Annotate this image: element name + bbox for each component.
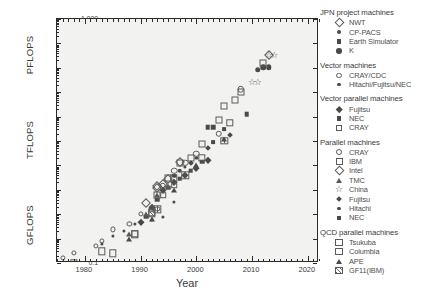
data-point: [170, 174, 177, 181]
y-axis-minor-tick: [57, 75, 59, 76]
y-axis-minor-tick: [57, 182, 59, 183]
legend-item[interactable]: NEC: [320, 114, 431, 123]
x-axis-minor-tick: [168, 259, 169, 262]
legend-item[interactable]: APE: [320, 256, 431, 265]
legend-item[interactable]: Columbia: [320, 247, 431, 256]
x-axis-tick-top: [286, 19, 287, 22]
y-axis-tick-right: [313, 141, 317, 142]
y-axis-minor-tick: [57, 96, 59, 97]
x-axis-tick: [252, 256, 253, 261]
legend-item[interactable]: NEC: [320, 213, 431, 222]
y-axis-minor-tick: [57, 194, 59, 195]
y-axis-minor-tick: [57, 45, 59, 46]
x-axis-tick-label: 2020: [299, 265, 316, 274]
legend-item-label: K: [349, 46, 354, 55]
y-axis-minor-tick: [57, 195, 59, 196]
legend-item[interactable]: CRAY/CDC: [320, 71, 431, 80]
data-point: [226, 119, 233, 126]
x-axis-tick-top: [141, 19, 142, 24]
x-axis-minor-tick: [163, 259, 164, 262]
y-axis-minor-tick: [57, 203, 59, 204]
y-axis-tick-right: [313, 43, 317, 44]
y-axis-minor-tick: [57, 24, 59, 25]
x-axis-tick-label: 2010: [243, 265, 260, 274]
legend-item[interactable]: Tsukuba: [320, 238, 431, 247]
legend-item[interactable]: Fujitsu: [320, 104, 431, 113]
y-axis-minor-tick: [57, 146, 59, 147]
x-axis-minor-tick: [219, 259, 220, 262]
y-axis-minor-tick: [57, 175, 59, 176]
x-axis-tick-top: [230, 19, 231, 22]
y-axis-minor-tick: [57, 242, 59, 243]
x-axis-tick-top: [258, 19, 259, 22]
legend-item-label: APE: [349, 257, 364, 266]
x-axis-minor-tick: [213, 259, 214, 262]
x-axis-tick-top: [157, 19, 158, 22]
y-axis-minor-tick: [57, 47, 59, 48]
x-axis-minor-tick: [68, 259, 69, 262]
square-open-qcd-icon: [333, 238, 345, 247]
diamond-filled-sm-icon: [333, 195, 345, 204]
y-axis-unit-label-gflops: GFLOPS: [24, 206, 35, 246]
y-axis-minor-tick: [57, 120, 59, 121]
data-point: [215, 117, 222, 124]
legend-item[interactable]: IBM: [320, 157, 431, 166]
y-axis-minor-tick: [57, 69, 59, 70]
y-axis-minor-tick: [57, 231, 59, 232]
x-axis-minor-tick: [258, 259, 259, 262]
legend-item[interactable]: CRAY: [320, 123, 431, 132]
x-axis-tick-top: [269, 19, 270, 22]
x-axis-minor-tick: [269, 259, 270, 262]
data-point: [222, 127, 226, 131]
plot-frame: ☆☆☆☆: [56, 18, 318, 262]
legend-item[interactable]: NWT: [320, 18, 431, 27]
x-axis-minor-tick: [263, 259, 264, 262]
x-axis-tick-top: [241, 19, 242, 22]
legend-group-title: Vector parallel machines: [320, 94, 431, 103]
x-axis-minor-tick: [202, 259, 203, 262]
x-axis-minor-tick: [230, 259, 231, 262]
x-axis-tick-top: [118, 19, 119, 22]
data-point: [211, 140, 215, 144]
legend-item[interactable]: Hitachi/Fujitsu/NEC: [320, 80, 431, 89]
data-point: [221, 137, 227, 142]
legend-item[interactable]: CRAY: [320, 148, 431, 157]
legend-item[interactable]: Fujitsu: [320, 194, 431, 203]
legend-group-title: QCD parallel machines: [320, 228, 431, 237]
y-axis-minor-tick: [57, 167, 59, 168]
legend-item[interactable]: CP-PACS: [320, 27, 431, 36]
legend-item[interactable]: GF11(IBM): [320, 266, 431, 275]
y-axis-minor-tick: [57, 256, 59, 257]
data-point: [160, 192, 166, 198]
diamond-open-icon: [333, 18, 345, 27]
x-axis-tick-top: [68, 19, 69, 22]
y-axis-minor-tick: [57, 142, 59, 143]
legend-item[interactable]: Hitachi: [320, 204, 431, 213]
y-axis-minor-tick: [57, 215, 59, 216]
x-axis-tick-top: [291, 19, 292, 22]
y-axis-minor-tick: [57, 102, 59, 103]
legend-item[interactable]: ☆China: [320, 185, 431, 194]
x-axis-tick-top: [196, 19, 197, 24]
y-axis-minor-tick: [57, 32, 59, 33]
y-axis-minor-tick: [57, 95, 59, 96]
x-axis-minor-tick: [302, 259, 303, 262]
legend-item-label: Intel: [349, 166, 362, 175]
square-open-sm-icon: [333, 123, 345, 132]
data-point: [266, 65, 272, 71]
data-point: [100, 242, 103, 245]
x-axis-minor-tick: [180, 259, 181, 262]
y-axis-minor-tick: [57, 129, 59, 130]
x-axis-tick-top: [57, 19, 58, 22]
y-axis-minor-tick: [57, 51, 59, 52]
data-point: [205, 146, 211, 152]
x-axis-minor-tick: [297, 259, 298, 262]
legend-item[interactable]: Intel: [320, 166, 431, 175]
x-axis-tick: [308, 256, 309, 261]
data-point: [198, 154, 205, 161]
y-axis-minor-tick: [57, 158, 59, 159]
y-axis-minor-tick: [57, 98, 59, 99]
legend-item[interactable]: K: [320, 46, 431, 55]
legend-item[interactable]: Earth Simulator: [320, 37, 431, 46]
x-axis-minor-tick: [157, 259, 158, 262]
